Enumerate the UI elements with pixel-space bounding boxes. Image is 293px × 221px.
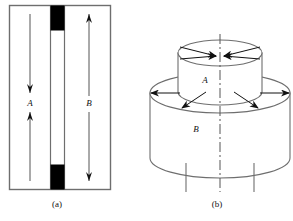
bottom-plug [51,165,65,190]
panel-b: A B [150,34,290,192]
panel-a-label-A: A [26,98,33,108]
diagram-canvas: A B [0,0,293,221]
panel-a-label-B: B [86,98,92,108]
panel-b-label-A: A [201,75,208,85]
panel-a-caption: (a) [43,199,71,209]
panel-b-caption: (b) [203,199,231,209]
panel-a-outer-rectangle [10,6,111,190]
panel-b-label-B: B [193,124,199,134]
top-plug [51,6,65,31]
panel-a: A B [10,6,111,190]
figure-container: A B [0,0,293,221]
